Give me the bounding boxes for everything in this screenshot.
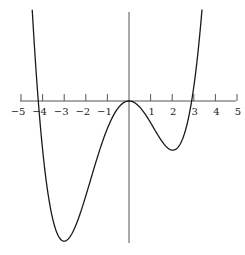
x-tick-label: −2 bbox=[75, 106, 90, 117]
x-tick-label: 5 bbox=[235, 106, 241, 117]
x-tick-label: 2 bbox=[170, 106, 176, 117]
x-tick-labels: −5−4−3−2−112345 bbox=[11, 106, 242, 117]
x-tick-label: 1 bbox=[148, 106, 154, 117]
function-plot: −5−4−3−2−112345 bbox=[0, 0, 245, 255]
function-curve bbox=[32, 10, 202, 242]
x-tick-label: 3 bbox=[192, 106, 198, 117]
x-tick-label: −1 bbox=[97, 106, 112, 117]
x-axis: −5−4−3−2−112345 bbox=[11, 94, 242, 117]
x-tick-label: −3 bbox=[54, 106, 69, 117]
x-tick-label: 4 bbox=[213, 106, 219, 117]
x-tick-label: −5 bbox=[11, 106, 26, 117]
